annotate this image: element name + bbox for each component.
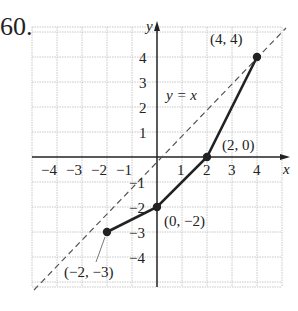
point-label-0-neg2: (0, −2) <box>164 213 205 230</box>
leader-line <box>96 237 105 262</box>
point-label-2-0: (2, 0) <box>222 137 255 154</box>
identity-line-label: y = x <box>164 87 197 103</box>
svg-text:4: 4 <box>253 162 261 178</box>
x-tick-labels: −4 −3 −2 −1 1 2 3 4 <box>41 162 261 178</box>
point-label-neg2-neg3: (−2, −3) <box>64 264 113 281</box>
svg-text:−3: −3 <box>129 225 145 241</box>
axes <box>32 25 286 287</box>
chart: x y −4 −3 −2 −1 1 2 3 4 4 3 2 1 −1 −2 −3… <box>0 0 298 311</box>
point-marker <box>203 153 211 161</box>
svg-text:−2: −2 <box>129 200 145 216</box>
svg-text:2: 2 <box>139 100 147 116</box>
point-marker <box>253 53 261 61</box>
y-axis-label: y <box>144 18 153 34</box>
svg-text:1: 1 <box>139 125 147 141</box>
svg-text:1: 1 <box>177 162 185 178</box>
svg-text:−4: −4 <box>41 162 57 178</box>
svg-text:3: 3 <box>228 162 236 178</box>
svg-text:3: 3 <box>139 75 147 91</box>
svg-text:−4: −4 <box>129 250 145 266</box>
svg-text:−1: −1 <box>129 175 145 191</box>
point-marker <box>103 228 111 236</box>
svg-text:−2: −2 <box>91 162 107 178</box>
y-axis-arrow-icon <box>154 21 160 31</box>
x-axis-label: x <box>282 161 290 177</box>
point-marker <box>153 203 161 211</box>
point-label-4-4: (4, 4) <box>210 31 243 48</box>
svg-text:−3: −3 <box>66 162 82 178</box>
svg-text:2: 2 <box>203 162 211 178</box>
x-axis-arrow-icon <box>280 154 290 160</box>
svg-text:4: 4 <box>139 50 147 66</box>
identity-line <box>34 28 286 290</box>
